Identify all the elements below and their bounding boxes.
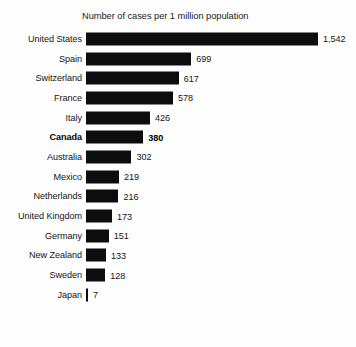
bar-track: 151	[86, 229, 356, 242]
bar-value-label: 216	[123, 191, 138, 201]
bar-category-label: France	[54, 93, 82, 103]
bar-value-label: 173	[117, 211, 132, 221]
bar-value-label: 1,542	[323, 34, 346, 44]
bar-track: 302	[86, 150, 356, 163]
bar-fill	[86, 190, 118, 203]
bar-row: Australia302	[0, 147, 356, 167]
bar-fill	[86, 72, 179, 85]
bar-row: Switzerland617	[0, 68, 356, 88]
bar-track: 1,542	[86, 32, 356, 45]
bar-track: 133	[86, 249, 356, 262]
bar-value-label: 426	[155, 113, 170, 123]
bar-value-label: 380	[148, 132, 163, 142]
bar-value-label: 617	[184, 73, 199, 83]
bar-row: Italy426	[0, 108, 356, 128]
bar-track: 219	[86, 170, 356, 183]
bar-category-label: Germany	[45, 231, 82, 241]
bar-fill	[86, 52, 191, 65]
bar-value-label: 7	[93, 290, 98, 300]
bar-category-label: Italy	[66, 113, 82, 123]
bar-category-label: Canada	[49, 132, 82, 142]
bar-fill	[86, 32, 318, 45]
bar-row: Sweden128	[0, 265, 356, 285]
bar-fill	[86, 111, 150, 124]
bar-row: Mexico219	[0, 167, 356, 187]
bar-row: Spain699	[0, 49, 356, 69]
bar-row: Germany151	[0, 226, 356, 246]
bar-fill	[86, 249, 106, 262]
bar-category-label: Netherlands	[34, 191, 83, 201]
bar-value-label: 302	[136, 152, 151, 162]
bar-chart: Number of cases per 1 million population…	[0, 0, 356, 347]
bar-track: 617	[86, 72, 356, 85]
bar-value-label: 128	[110, 270, 125, 280]
bar-category-label: United Kingdom	[18, 211, 82, 221]
bar-fill	[86, 131, 143, 144]
bar-fill	[86, 91, 173, 104]
bar-track: 7	[86, 288, 356, 301]
bar-fill	[86, 210, 112, 223]
bar-row: Netherlands216	[0, 187, 356, 207]
bar-fill	[86, 170, 119, 183]
bar-row: Japan7	[0, 285, 356, 305]
bar-category-label: New Zealand	[29, 250, 82, 260]
bar-category-label: Spain	[59, 54, 82, 64]
bar-track: 216	[86, 190, 356, 203]
bar-category-label: United States	[28, 34, 82, 44]
bar-row: United Kingdom173	[0, 206, 356, 226]
chart-plot-area: United States1,542Spain699Switzerland617…	[0, 29, 356, 305]
bar-row: Canada380	[0, 127, 356, 147]
bar-value-label: 151	[114, 231, 129, 241]
bar-category-label: Mexico	[53, 172, 82, 182]
bar-category-label: Sweden	[49, 270, 82, 280]
bar-track: 380	[86, 131, 356, 144]
bar-category-label: Switzerland	[36, 73, 82, 83]
bar-fill	[86, 229, 109, 242]
bar-value-label: 219	[124, 172, 139, 182]
bar-track: 173	[86, 210, 356, 223]
bar-row: New Zealand133	[0, 246, 356, 266]
bar-value-label: 699	[196, 54, 211, 64]
bar-row: France578	[0, 88, 356, 108]
bar-fill	[86, 269, 105, 282]
bar-row: United States1,542	[0, 29, 356, 49]
bar-category-label: Australia	[47, 152, 82, 162]
bar-track: 426	[86, 111, 356, 124]
bar-fill	[86, 150, 131, 163]
chart-title: Number of cases per 1 million population	[82, 11, 248, 21]
bar-value-label: 578	[178, 93, 193, 103]
bar-value-label: 133	[111, 250, 126, 260]
bar-fill	[86, 288, 88, 301]
bar-track: 578	[86, 91, 356, 104]
bar-category-label: Japan	[57, 290, 82, 300]
bar-track: 699	[86, 52, 356, 65]
bar-track: 128	[86, 269, 356, 282]
